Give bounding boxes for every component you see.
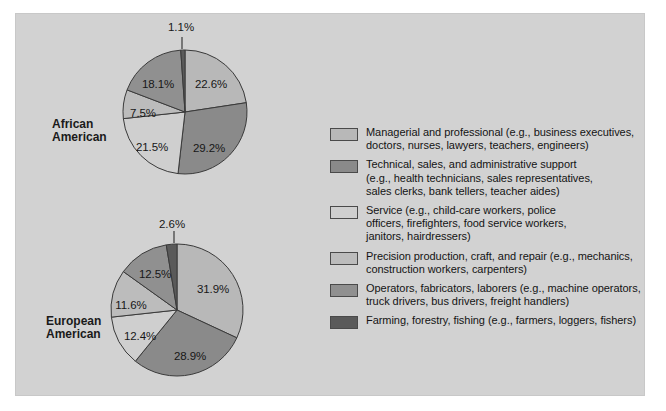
pie-slice-value-label: 11.6%	[115, 299, 146, 311]
chart-panel: African American 22.6%29.2%21.5%7.5%18.1…	[16, 14, 644, 395]
legend-item-line: Technical, sales, and administrative sup…	[366, 158, 593, 171]
legend-item: Service (e.g., child-care workers, polic…	[330, 204, 650, 244]
legend-item-label: Precision production, craft, and repair …	[366, 250, 633, 276]
legend-item-line: construction workers, carpenters)	[366, 263, 633, 276]
legend-item-line: officers, firefighters, food service wor…	[366, 217, 567, 230]
pie-slice-value-label: 12.5%	[139, 268, 171, 280]
legend-item: Managerial and professional (e.g., busin…	[330, 126, 650, 152]
legend-item: Technical, sales, and administrative sup…	[330, 158, 650, 198]
pie-slice-value-label: 2.6%	[159, 218, 185, 230]
row-label-line2: American	[46, 328, 101, 341]
legend-swatch	[330, 316, 358, 329]
legend-item-line: (e.g., health technicians, sales represe…	[366, 172, 593, 185]
pie-chart-european-american	[16, 14, 316, 404]
legend-item-label: Operators, fabricators, laborers (e.g., …	[366, 282, 641, 308]
legend-item-line: janitors, hairdressers)	[366, 230, 567, 243]
legend-item-label: Technical, sales, and administrative sup…	[366, 158, 593, 198]
pie-slice-value-label: 31.9%	[197, 283, 229, 295]
pie-slice-value-label: 12.4%	[124, 330, 156, 342]
legend-item-label: Managerial and professional (e.g., busin…	[366, 126, 634, 152]
legend-item-line: truck drivers, bus drivers, freight hand…	[366, 295, 641, 308]
legend-item: Precision production, craft, and repair …	[330, 250, 650, 276]
legend-item-line: Farming, forestry, fishing (e.g., farmer…	[366, 314, 636, 327]
legend-swatch	[330, 284, 358, 297]
legend-swatch	[330, 160, 358, 173]
legend-item-line: Service (e.g., child-care workers, polic…	[366, 204, 567, 217]
chart-legend: Managerial and professional (e.g., busin…	[330, 126, 650, 335]
pie-svg-european-american	[16, 14, 316, 404]
pie-slice-value-label: 28.9%	[174, 350, 206, 362]
legend-swatch	[330, 206, 358, 219]
legend-swatch	[330, 252, 358, 265]
legend-item-line: Precision production, craft, and repair …	[366, 250, 633, 263]
legend-item-line: sales clerks, bank tellers, teacher aide…	[366, 185, 593, 198]
row-label-european-american: European American	[46, 315, 101, 341]
legend-item-line: Operators, fabricators, laborers (e.g., …	[366, 282, 641, 295]
legend-item-label: Service (e.g., child-care workers, polic…	[366, 204, 567, 244]
legend-item-label: Farming, forestry, fishing (e.g., farmer…	[366, 314, 636, 327]
legend-item: Operators, fabricators, laborers (e.g., …	[330, 282, 650, 308]
legend-item: Farming, forestry, fishing (e.g., farmer…	[330, 314, 650, 329]
legend-swatch	[330, 128, 358, 141]
legend-item-line: Managerial and professional (e.g., busin…	[366, 126, 634, 139]
legend-item-line: doctors, nurses, lawyers, teachers, engi…	[366, 139, 634, 152]
